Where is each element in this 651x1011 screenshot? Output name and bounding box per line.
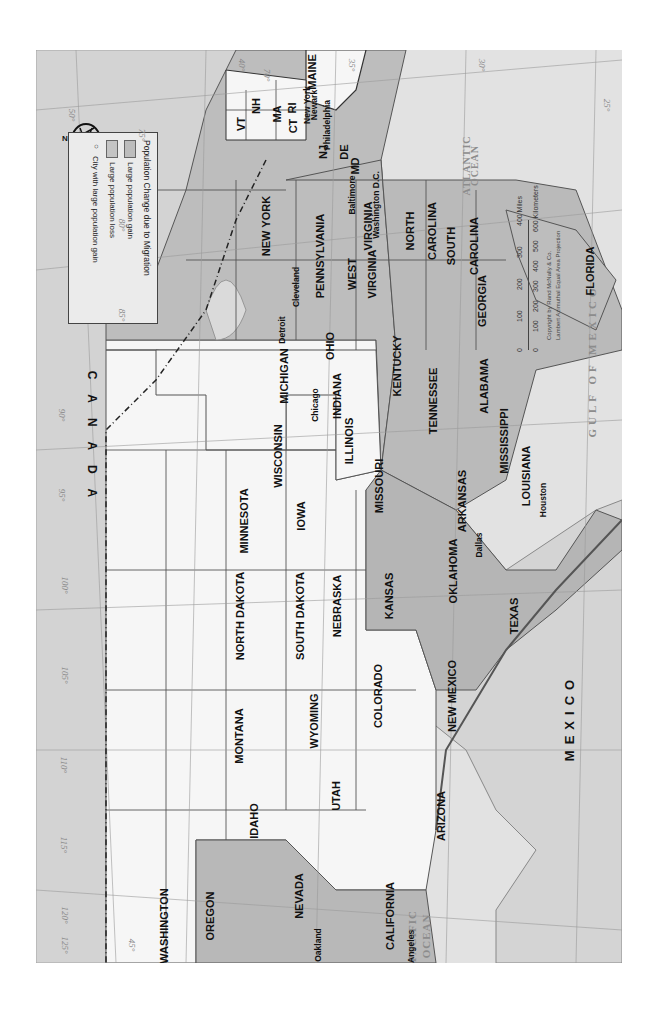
state-label-new-york: NEW YORK — [260, 196, 272, 256]
state-label-nh: NH — [250, 98, 262, 114]
legend-label-city: City with large population gain — [91, 156, 100, 263]
lon-label-105: 105° — [60, 666, 70, 683]
state-label-north-carolina: NORTH — [404, 211, 416, 250]
state-label-arkansas: ARKANSAS — [456, 470, 468, 532]
state-label-minnesota: MINNESOTA — [238, 488, 250, 553]
city-label-philadelphia: Philadelphia — [322, 100, 332, 150]
state-label-nevada: NEVADA — [293, 873, 305, 919]
state-label-missouri: MISSOURI — [373, 459, 385, 513]
ocean-label-gulf: GULF OF MEXICO — [586, 285, 598, 438]
lat-label-35: 35° — [347, 59, 357, 72]
state-label-illinois: ILLINOIS — [343, 418, 355, 464]
state-label-arizona: ARIZONA — [435, 791, 447, 841]
state-label-south-carolina-2: CAROLINA — [468, 217, 480, 275]
lon-label-120: 120° — [60, 906, 70, 923]
legend-city-symbol: ○ — [92, 144, 101, 149]
state-label-oklahoma: OKLAHOMA — [447, 539, 459, 604]
country-label-mexico: MEXICO — [562, 674, 577, 761]
state-label-iowa: IOWA — [295, 501, 307, 530]
lat-label-25: 25° — [602, 99, 612, 112]
scale-km-300: 300 — [532, 280, 539, 292]
scale-mi-400: 400 Miles — [516, 196, 523, 226]
lon-label-85: 85° — [117, 309, 127, 322]
state-label-georgia: GEORGIA — [476, 275, 488, 327]
city-label-detroit: Detroit — [277, 316, 287, 343]
legend-title: Population Change due to Migration — [142, 140, 152, 276]
city-label-newark: Newark — [309, 90, 319, 120]
ocean-label-atlantic-2: OCEAN — [469, 145, 480, 186]
state-label-michigan: MICHIGAN — [278, 348, 290, 404]
lon-label-110: 110° — [59, 757, 69, 773]
state-label-montana: MONTANA — [233, 708, 245, 763]
state-label-wyoming: WYOMING — [308, 694, 320, 749]
lat-label-50: 50° — [67, 109, 77, 122]
state-label-ct: CT — [287, 119, 299, 134]
lon-label-75: 75° — [137, 129, 147, 142]
state-label-louisiana: LOUISIANA — [520, 446, 532, 507]
scale-km-500: 500 — [532, 240, 539, 252]
city-label-houston: Houston — [538, 483, 548, 517]
scale-credit: Copyright by Rand McNally & Co. — [546, 251, 552, 340]
state-label-colorado: COLORADO — [372, 664, 384, 728]
state-label-north-carolina-2: CAROLINA — [426, 202, 438, 260]
state-label-new-mexico: NEW MEXICO — [446, 660, 458, 732]
lon-label-125: 125° — [60, 936, 70, 953]
state-label-kentucky: KENTUCKY — [391, 335, 403, 396]
scale-mi-100: 100 — [516, 310, 523, 322]
city-label-baltimore: Baltimore — [347, 175, 357, 214]
scale-mi-0: 0 — [516, 348, 523, 352]
state-label-utah: UTAH — [330, 781, 342, 811]
state-label-north-dakota: NORTH DAKOTA — [234, 572, 246, 660]
state-label-nebraska: NEBRASKA — [331, 575, 343, 637]
lon-label-80: 80° — [117, 219, 127, 232]
legend-label-gain: Large population gain — [126, 162, 135, 239]
state-label-california: CALIFORNIA — [384, 882, 396, 950]
state-label-florida: FLORIDA — [584, 247, 596, 296]
state-label-ohio: OHIO — [324, 332, 336, 360]
city-label-los-angeles: Los Angeles — [406, 930, 416, 963]
city-label-cleveland: Cleveland — [291, 267, 301, 307]
compass-north-label: N — [62, 134, 68, 143]
state-label-vt: VT — [235, 117, 247, 131]
city-label-chicago: Chicago — [310, 388, 320, 422]
legend: Population Change due to Migration Large… — [68, 132, 158, 324]
state-label-mississippi: MISSISSIPPI — [498, 408, 510, 473]
state-label-kansas: KANSAS — [383, 573, 395, 619]
city-label-dallas: Dallas — [474, 532, 484, 557]
state-label-texas: TEXAS — [508, 598, 520, 635]
state-label-indiana: INDIANA — [331, 373, 343, 419]
state-label-washington: WASHINGTON — [158, 888, 170, 963]
legend-swatch-gain — [124, 140, 136, 158]
state-label-west-virginia-2: VIRGINIA — [366, 250, 378, 299]
state-label-alabama: ALABAMA — [478, 358, 490, 414]
lon-label-100: 100° — [60, 576, 70, 593]
map-frame: N C A N A D A MEXICO ATLANTIC OCEAN GULF… — [36, 50, 622, 963]
lat-label-40: 40° — [237, 59, 247, 72]
state-label-oregon: OREGON — [204, 892, 216, 941]
lon-label-90: 90° — [57, 409, 67, 422]
state-label-pennsylvania: PENNSYLVANIA — [314, 214, 326, 299]
state-label-south-dakota: SOUTH DAKOTA — [294, 572, 306, 660]
legend-swatch-loss — [106, 140, 118, 158]
state-label-md: MD — [349, 157, 361, 174]
scale-mi-300: 300 — [516, 246, 523, 258]
state-label-tennessee: TENNESSEE — [427, 368, 439, 435]
state-label-west-virginia: WEST — [346, 258, 358, 290]
city-label-oakland: Oakland — [313, 928, 323, 962]
lon-label-115: 115° — [59, 837, 69, 853]
state-label-wisconsin: WISCONSIN — [272, 424, 284, 488]
scale-km-100: 100 — [532, 320, 539, 332]
ocean-label-pacific-2: OCEAN — [420, 914, 432, 959]
state-label-idaho: IDAHO — [248, 803, 260, 838]
scale-mi-200: 200 — [516, 278, 523, 290]
scale-km-600: 600 Kilometers — [532, 185, 539, 232]
country-label-canada: C A N A D A — [85, 371, 99, 503]
legend-label-loss: Large population loss — [108, 162, 117, 238]
scale-km-400: 400 — [532, 260, 539, 272]
lon-label-95: 95° — [57, 489, 67, 502]
city-label-washington-dc: Washington D.C. — [371, 171, 381, 239]
lat-label-45: 45° — [127, 939, 137, 952]
scale-km-0: 0 — [532, 348, 539, 352]
lat-label-30: 30° — [477, 59, 487, 72]
state-label-ma: MA — [271, 105, 283, 122]
